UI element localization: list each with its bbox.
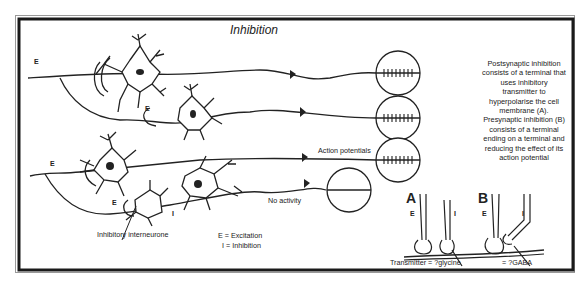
desc-line: reducing the effect of its	[476, 144, 572, 153]
panel-a-e-label: E	[410, 210, 415, 217]
desc-line: consists of a terminal that	[476, 68, 572, 77]
neuron-e-label-1: E	[34, 58, 39, 65]
desc-line: consists of a terminal	[476, 125, 572, 134]
neuron-e-label-4: E	[112, 199, 117, 206]
action-potentials-label: Action potentials	[318, 146, 371, 155]
desc-line: transmitter to	[476, 87, 572, 96]
description-text: Postsynaptic inhibition consists of a te…	[476, 59, 572, 162]
axon-1	[28, 70, 376, 79]
panel-b-e-label: E	[482, 210, 487, 217]
neuron-e-label-3: E	[50, 160, 55, 167]
desc-line: membrane (A).	[476, 106, 572, 115]
recording-circles	[327, 51, 420, 212]
panel-b-label: B	[478, 190, 488, 206]
desc-line: hyperpolarise the cell	[476, 97, 572, 106]
desc-line: Postsynaptic inhibition	[476, 59, 572, 68]
neuron-i-label: I	[172, 210, 174, 217]
desc-line: uses inhibitory	[476, 78, 572, 87]
inhibitory-interneurone-label: Inhibitory interneurone	[97, 230, 169, 239]
panel-b-i-label: I	[522, 210, 524, 217]
neurons	[28, 34, 376, 240]
legend-excitation: E = Excitation	[218, 231, 262, 240]
synapse-panels	[404, 194, 544, 266]
desc-line: action potential	[476, 153, 572, 162]
gaba-label: = ?GABA	[502, 258, 532, 267]
panel-a-label: A	[406, 190, 416, 206]
legend-inhibition: I = Inhibition	[222, 241, 261, 250]
neuron-e-label-2: E	[145, 105, 150, 112]
arrowheads	[290, 70, 310, 188]
desc-line: Presynaptic inhibition (B)	[476, 115, 572, 124]
diagram-title: Inhibition	[230, 23, 278, 37]
no-activity-label: No activity	[268, 196, 301, 205]
axon-2	[60, 78, 376, 123]
desc-line: ending on a terminal and	[476, 134, 572, 143]
transmitter-glycine-label: Transmitter = ?glycine	[390, 258, 461, 267]
panel-a-i-label: I	[454, 210, 456, 217]
